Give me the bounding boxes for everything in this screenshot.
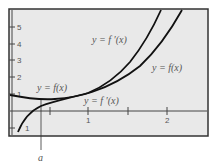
a-label: a — [38, 152, 43, 163]
y-tick-label-2: 2 — [17, 73, 22, 82]
label-f-left: y = f(x) — [36, 82, 68, 94]
label-f-prime-low: y = f ′(x) — [83, 95, 119, 107]
x-tick-label-1: 1 — [86, 116, 91, 125]
y-tick-label-minus1: 1 — [25, 124, 30, 133]
label-f-prime-top: y = f ′(x) — [91, 34, 127, 46]
label-f-right: y = f(x) — [151, 62, 183, 74]
x-tick-label-2: 2 — [165, 116, 170, 125]
y-tick-label-5: 5 — [17, 23, 22, 32]
y-tick-label-4: 4 — [17, 40, 22, 49]
y-tick-label-3: 3 — [17, 56, 22, 65]
chart: 5 4 3 2 1 1 1 2 a y = f ′(x) y = f(x) y … — [0, 0, 218, 165]
